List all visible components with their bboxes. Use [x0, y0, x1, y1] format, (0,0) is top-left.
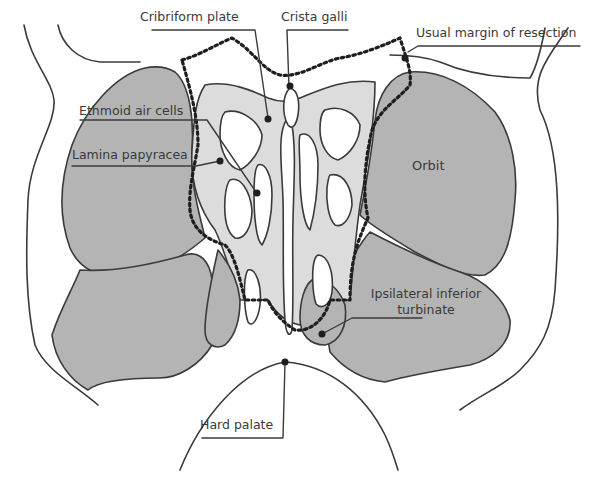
dot-cribriform-plate: [265, 116, 272, 123]
label-inferior-turbinate-line2: turbinate: [356, 303, 496, 317]
anatomy-diagram: [0, 0, 606, 478]
dot-usual-margin: [402, 55, 409, 62]
label-ethmoid-air-cells: Ethmoid air cells: [79, 104, 183, 118]
crista-galli: [284, 88, 299, 127]
left-upper-contour: [58, 25, 140, 62]
label-crista-galli: Crista galli: [281, 10, 347, 24]
label-usual-margin-of-resection: Usual margin of resection: [416, 26, 576, 40]
label-hard-palate: Hard palate: [200, 418, 273, 432]
dot-crista-galli: [287, 83, 294, 90]
left-maxillary-sinus: [52, 254, 213, 390]
label-lamina-papyracea: Lamina papyracea: [72, 148, 188, 162]
label-inferior-turbinate-line1: Ipsilateral inferior: [356, 287, 496, 301]
dot-ethmoid-air-cells: [254, 190, 261, 197]
left-orbit: [62, 67, 205, 276]
dot-inferior-turbinate: [319, 331, 326, 338]
dot-lamina-papyracea: [217, 158, 224, 165]
dot-hard-palate: [282, 359, 289, 366]
label-cribriform-plate: Cribriform plate: [140, 10, 239, 24]
label-orbit: Orbit: [412, 159, 445, 173]
